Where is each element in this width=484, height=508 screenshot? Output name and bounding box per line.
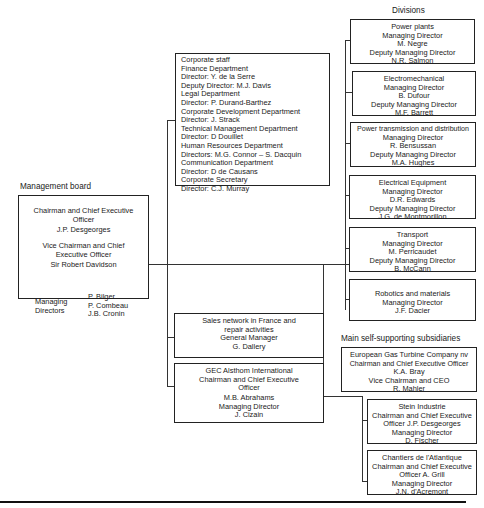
division-box-transport: Transport Managing Director M. Perricaud… [349,227,476,272]
gec-international-box: GEC Alsthom International Chairman and C… [174,363,324,423]
sales-network-line: G. Dallery [175,343,323,352]
lower-left-spine-line [167,264,168,386]
division-box-electromechanical: Electromechanical Managing Director B. D… [352,71,476,116]
chairman-name: J.P. Desgeorges [19,226,148,235]
division-line: J.F. Dacier [350,307,475,316]
subsidiaries-inner-spine [362,396,363,481]
divisions-spine-line [345,40,346,310]
subsidiaries-heading: Main self-supporting subsidiaries [341,334,460,343]
subsidiary-box-egt: European Gas Turbine Company nv Chairman… [341,347,477,392]
board-to-spine-line [148,264,362,265]
division-line: M.A. Hughes [351,159,475,168]
division-box-electrical-equipment: Electrical Equipment Managing Director D… [349,175,476,219]
division-box-robotics: Robotics and materials Managing Director… [349,279,476,321]
subsidiary-line: D. Fischer [368,437,476,446]
managing-director-name: J.B. Cronin [88,310,128,319]
vice-chairman-name: Sir Robert Davidson [19,261,148,270]
division-line: J.G. de Montmorillon [350,213,475,222]
subsidiary-box-chantiers: Chantiers de l'Atlantique Chairman and C… [367,450,477,495]
subsidiary-line: J.N. d'Acremont [368,488,476,497]
division-connector-1 [345,92,352,93]
managing-directors-label-2: Directors [35,307,67,314]
division-box-power-transmission: Power transmission and distribution Mana… [350,122,476,167]
corporate-staff-line: Director: C.J. Murray [181,185,329,194]
management-board-box: Chairman and Chief Executive Officer J.P… [18,195,149,299]
vice-chairman-title-2: Executive Officer [19,251,148,258]
divisions-heading: Divisions [392,6,425,15]
corporate-staff-box: Corporate staff Finance Department Direc… [175,53,330,186]
gec-line: J. Cizain [175,411,323,420]
division-line: B. McCann [350,265,475,274]
subsidiary-line: R. Mahler [342,385,476,394]
division-line: N.R. Salmon [351,57,474,66]
management-board-heading: Management board [20,182,91,191]
gec-line: Officer [175,384,323,391]
subsidiary-box-stein: Stein Industrie Chairman and Chief Execu… [367,399,477,444]
subsidiary-line: European Gas Turbine Company nv [342,351,476,360]
chairman-title-2: Officer [19,216,148,223]
subsidiaries-branch [323,396,363,397]
bottom-rule [0,501,466,503]
division-box-power-plants: Power plants Managing Director M. Negre … [350,19,475,64]
division-line: M.F. Barrett [353,109,475,118]
sales-network-box: Sales network in France and repair activ… [174,313,324,358]
